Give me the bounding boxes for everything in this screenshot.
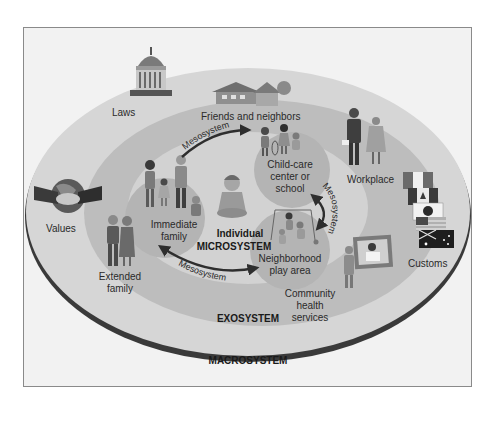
immediate-family-label-1: Immediate	[151, 219, 198, 230]
neighborhood-label-1: Neighborhood	[259, 253, 322, 264]
childcare-label-1: Child-care	[267, 159, 313, 170]
macrosystem-label: MACROSYSTEM	[209, 355, 288, 366]
childcare-label-2: center or	[270, 171, 310, 182]
microsystem-label: MICROSYSTEM	[197, 241, 271, 252]
extended-family-label-1: Extended	[99, 271, 141, 282]
friends-neighbors-label: Friends and neighbors	[201, 111, 301, 122]
individual-label: Individual	[217, 228, 264, 239]
neighborhood-label-2: play area	[269, 265, 311, 276]
laws-label: Laws	[112, 107, 135, 118]
immediate-family-label-2: family	[161, 231, 187, 242]
capitol-building-icon	[130, 47, 172, 96]
extended-family-label-2: family	[107, 283, 133, 294]
community-health-label-3: services	[292, 312, 329, 323]
customs-label: Customs	[408, 258, 447, 269]
exosystem-label: EXOSYSTEM	[217, 313, 279, 324]
ecological-systems-diagram: Laws Friends and neighbors Workplace Val…	[0, 0, 491, 423]
workplace-label: Workplace	[347, 174, 394, 185]
values-label: Values	[46, 223, 76, 234]
childcare-label-3: school	[276, 183, 305, 194]
community-health-label-1: Community	[285, 288, 336, 299]
community-health-label-2: health	[296, 300, 323, 311]
